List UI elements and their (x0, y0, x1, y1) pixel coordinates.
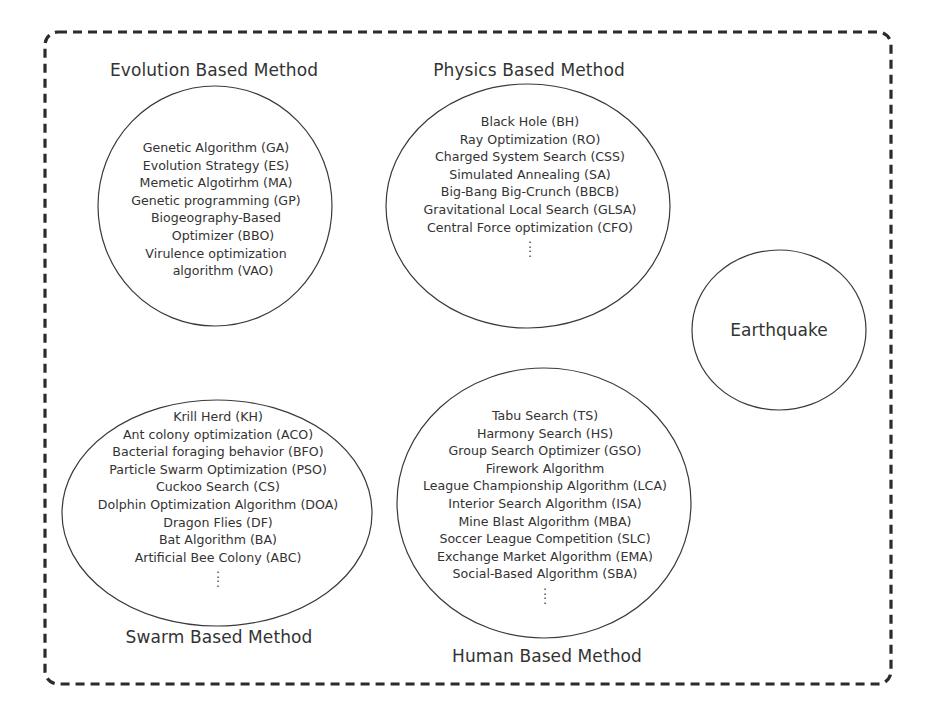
list-item: League Championship Algorithm (LCA) (423, 477, 667, 495)
list-item: Krill Herd (KH) (98, 408, 338, 426)
list-item: Biogeography-Based (131, 209, 300, 227)
physics-list: Black Hole (BH) Ray Optimization (RO) Ch… (424, 113, 637, 258)
list-item: Group Search Optimizer (GSO) (423, 442, 667, 460)
list-item: Interior Search Algorithm (ISA) (423, 495, 667, 513)
list-item: Ant colony optimization (ACO) (98, 426, 338, 444)
evolution-title: Evolution Based Method (110, 60, 318, 80)
list-item: Social-Based Algorithm (SBA) (423, 565, 667, 583)
list-item: Evolution Strategy (ES) (131, 157, 300, 175)
human-title: Human Based Method (452, 646, 642, 666)
swarm-title: Swarm Based Method (126, 627, 313, 647)
list-item: algorithm (VAO) (131, 262, 300, 280)
list-item: Simulated Annealing (SA) (424, 166, 637, 184)
list-item: Exchange Market Algorithm (EMA) (423, 548, 667, 566)
list-item: Mine Blast Algorithm (MBA) (423, 513, 667, 531)
ellipsis-icon: : (98, 579, 338, 588)
ellipsis-icon: : (423, 596, 667, 605)
list-item: Soccer League Competition (SLC) (423, 530, 667, 548)
list-item: Harmony Search (HS) (423, 425, 667, 443)
list-item: Bacterial foraging behavior (BFO) (98, 443, 338, 461)
list-item: Firework Algorithm (423, 460, 667, 478)
list-item: Cuckoo Search (CS) (98, 478, 338, 496)
list-item: Black Hole (BH) (424, 113, 637, 131)
list-item: Particle Swarm Optimization (PSO) (98, 461, 338, 479)
human-list: Tabu Search (TS) Harmony Search (HS) Gro… (423, 407, 667, 605)
list-item: Dragon Flies (DF) (98, 514, 338, 532)
swarm-list: Krill Herd (KH) Ant colony optimization … (98, 408, 338, 588)
evolution-list: Genetic Algorithm (GA) Evolution Strateg… (131, 139, 300, 280)
earthquake-label: Earthquake (730, 320, 827, 340)
list-item: Genetic Algorithm (GA) (131, 139, 300, 157)
list-item: Bat Algorithm (BA) (98, 531, 338, 549)
list-item: Virulence optimization (131, 245, 300, 263)
list-item: Tabu Search (TS) (423, 407, 667, 425)
diagram-canvas (0, 0, 930, 724)
list-item: Dolphin Optimization Algorithm (DOA) (98, 496, 338, 514)
list-item: Central Force optimization (CFO) (424, 219, 637, 237)
list-item: Genetic programming (GP) (131, 192, 300, 210)
list-item: Ray Optimization (RO) (424, 131, 637, 149)
list-item: Optimizer (BBO) (131, 227, 300, 245)
list-item: Memetic Algotirhm (MA) (131, 174, 300, 192)
physics-title: Physics Based Method (433, 60, 625, 80)
ellipsis-icon: : (424, 249, 637, 258)
list-item: Charged System Search (CSS) (424, 148, 637, 166)
list-item: Gravitational Local Search (GLSA) (424, 201, 637, 219)
list-item: Artificial Bee Colony (ABC) (98, 549, 338, 567)
list-item: Big-Bang Big-Crunch (BBCB) (424, 183, 637, 201)
